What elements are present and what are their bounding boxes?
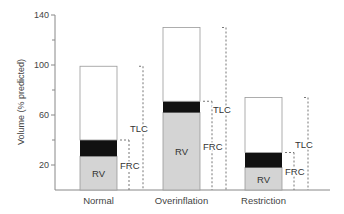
bar-restriction: RV	[245, 98, 282, 191]
erv-segment	[163, 101, 200, 112]
ic-segment	[80, 66, 117, 140]
category-label: Overinflation	[155, 195, 208, 206]
category-labels: NormalOverinflationRestriction	[83, 195, 286, 206]
lung-volume-chart: 2060100140 RVRVRV FRCTLCFRCTLCFRCTLC Nor…	[0, 0, 344, 214]
bar-overinflation: RV	[163, 28, 200, 191]
erv-segment	[80, 140, 117, 156]
frc-label: FRC	[203, 141, 223, 152]
ic-segment	[245, 98, 282, 153]
rv-label: RV	[257, 174, 271, 185]
rv-label: RV	[92, 168, 106, 179]
bars: RVRVRV	[80, 28, 282, 191]
ic-segment	[163, 28, 200, 102]
brackets-restriction: FRCTLC	[285, 98, 313, 191]
y-tick-label: 60	[39, 110, 49, 120]
brackets: FRCTLCFRCTLCFRCTLC	[120, 28, 313, 191]
brackets-overinflation: FRCTLC	[203, 28, 231, 191]
tlc-label: TLC	[213, 104, 231, 115]
brackets-normal: FRCTLC	[120, 66, 148, 190]
category-label: Restriction	[241, 195, 286, 206]
y-tick-label: 100	[34, 60, 49, 70]
rv-label: RV	[175, 146, 189, 157]
category-label: Normal	[83, 195, 114, 206]
tlc-label: TLC	[295, 139, 313, 150]
y-axis-label: Volume (% predicted)	[16, 59, 26, 145]
tlc-label: TLC	[130, 123, 148, 134]
erv-segment	[245, 153, 282, 168]
y-tick-label: 20	[39, 160, 49, 170]
bar-normal: RV	[80, 66, 117, 190]
frc-label: FRC	[285, 166, 305, 177]
y-tick-label: 140	[34, 10, 49, 20]
frc-label: FRC	[120, 160, 140, 171]
